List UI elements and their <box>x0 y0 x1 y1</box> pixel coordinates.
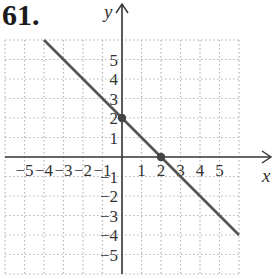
x-tick-label: 5 <box>215 161 224 180</box>
y-tick-label: −2 <box>100 187 118 206</box>
y-tick-label: 1 <box>110 129 119 148</box>
intercept-point <box>118 114 126 122</box>
y-tick-label: −5 <box>100 246 118 265</box>
y-tick-label: 5 <box>110 51 119 70</box>
intercept-point <box>157 153 165 161</box>
coordinate-plane: xy−5−4−3−2−11234554321−1−2−3−4−5 <box>0 0 277 279</box>
x-tick-label: 2 <box>157 161 166 180</box>
y-tick-label: −4 <box>100 226 119 245</box>
y-axis-label: y <box>102 1 113 22</box>
x-tick-label: −2 <box>74 161 92 180</box>
x-tick-label: −3 <box>54 161 72 180</box>
x-tick-label: −4 <box>35 161 54 180</box>
x-tick-label: 4 <box>196 161 205 180</box>
x-axis-label: x <box>261 165 271 186</box>
x-tick-label: −5 <box>15 161 33 180</box>
x-tick-label: 1 <box>137 161 146 180</box>
y-tick-label: 4 <box>110 70 119 89</box>
y-tick-label: −3 <box>100 207 118 226</box>
y-tick-label: −1 <box>100 168 118 187</box>
